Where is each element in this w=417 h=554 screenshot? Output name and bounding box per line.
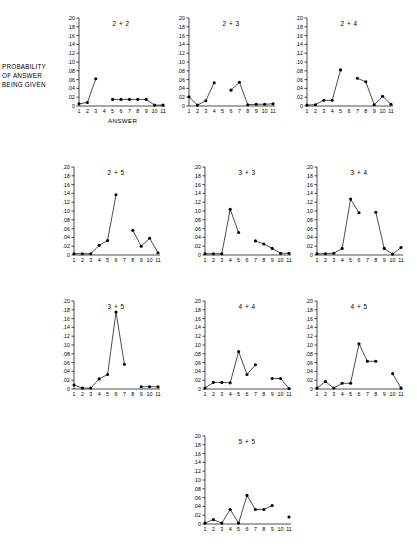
y-tick-label: .10: [68, 59, 75, 65]
x-tick-label: 9: [140, 391, 143, 397]
y-tick-label: .04: [63, 234, 70, 240]
x-tick-label: 4: [341, 257, 344, 263]
data-point: [339, 68, 342, 71]
x-tick-label: 7: [356, 108, 359, 114]
y-tick-label: .20: [63, 164, 70, 170]
x-tick-label: 4: [98, 257, 101, 263]
x-tick-label: 1: [188, 108, 191, 114]
x-tick-label: 2: [314, 108, 317, 114]
data-point: [332, 252, 335, 255]
data-point: [140, 385, 143, 388]
y-tick-label: .04: [178, 85, 185, 91]
y-tick-label: .04: [68, 85, 75, 91]
x-tick-label: 3: [322, 108, 325, 114]
data-point: [357, 342, 360, 345]
y-tick-label: .14: [306, 190, 313, 196]
x-tick-label: 5: [237, 391, 240, 397]
x-tick-label: 7: [128, 108, 131, 114]
x-tick-label: 2: [324, 391, 327, 397]
chart-panel-5+5: 0.02.04.06.08.10.12.14.16.18.20123456789…: [188, 432, 293, 544]
y-tick-label: .14: [194, 324, 201, 330]
series-segment: [376, 212, 401, 254]
x-tick-label: 6: [246, 526, 249, 532]
chart-panel-3+4: 0.02.04.06.08.10.12.14.16.18.20123456789…: [300, 163, 405, 275]
y-tick-label: 0: [310, 386, 313, 392]
y-tick-label: 0: [300, 103, 303, 109]
x-tick-label: 3: [204, 108, 207, 114]
data-point: [98, 244, 101, 247]
y-tick-label: .08: [194, 486, 201, 492]
x-tick-label: 7: [123, 391, 126, 397]
x-tick-label: 10: [380, 108, 386, 114]
y-tick-label: .06: [63, 360, 70, 366]
series-segment: [231, 82, 273, 104]
panel-title: 4 + 4: [239, 303, 256, 310]
y-tick-label: .08: [306, 217, 313, 223]
x-tick-label: 2: [86, 108, 89, 114]
y-tick-label: .06: [296, 77, 303, 83]
data-point: [271, 247, 274, 250]
data-point: [245, 373, 248, 376]
data-point: [341, 247, 344, 250]
x-tick-label: 6: [230, 108, 233, 114]
x-tick-label: 1: [78, 108, 81, 114]
y-tick-label: .08: [194, 351, 201, 357]
x-tick-label: 1: [73, 391, 76, 397]
data-point: [89, 252, 92, 255]
x-tick-label: 3: [89, 257, 92, 263]
y-tick-label: .02: [194, 377, 201, 383]
data-point: [254, 363, 257, 366]
x-tick-label: 6: [348, 108, 351, 114]
y-tick-label: .06: [194, 360, 201, 366]
y-tick-label: .02: [68, 94, 75, 100]
chart-panel-2+3: 0.02.04.06.08.10.12.14.16.18.20123456789…: [172, 14, 277, 126]
panel-title: 3 + 5: [108, 303, 125, 310]
data-point: [123, 363, 126, 366]
y-tick-label: .02: [194, 243, 201, 249]
x-tick-label: 9: [373, 108, 376, 114]
data-point: [263, 103, 266, 106]
data-point: [255, 103, 258, 106]
y-tick-label: .14: [194, 459, 201, 465]
data-point: [229, 89, 232, 92]
x-tick-label: 11: [388, 108, 394, 114]
y-tick-label: .10: [194, 208, 201, 214]
y-tick-label: 0: [198, 521, 201, 527]
x-tick-label: 2: [212, 257, 215, 263]
y-tick-label: 0: [198, 252, 201, 258]
y-tick-label: .12: [194, 468, 201, 474]
x-tick-label: 11: [155, 391, 161, 397]
y-tick-label: .10: [296, 59, 303, 65]
data-point: [229, 508, 232, 511]
x-tick-label: 11: [286, 257, 292, 263]
y-tick-label: .10: [178, 59, 185, 65]
y-tick-label: .16: [68, 33, 75, 39]
y-tick-label: .16: [63, 316, 70, 322]
x-tick-label: 8: [262, 526, 265, 532]
panel-title: 3 + 3: [239, 169, 256, 176]
y-tick-label: .16: [296, 33, 303, 39]
x-tick-label: 4: [213, 108, 216, 114]
data-point: [220, 522, 223, 525]
data-point: [262, 242, 265, 245]
y-tick-label: 0: [72, 103, 75, 109]
y-tick-label: .18: [296, 24, 303, 30]
data-point: [374, 211, 377, 214]
data-point: [254, 508, 257, 511]
data-point: [89, 387, 92, 390]
x-tick-label: 9: [140, 257, 143, 263]
x-tick-label: 2: [81, 257, 84, 263]
data-point: [114, 193, 117, 196]
y-tick-label: .18: [194, 442, 201, 448]
data-point: [212, 518, 215, 521]
panel-title: 4 + 5: [351, 303, 368, 310]
data-point: [111, 98, 114, 101]
x-tick-label: 3: [220, 391, 223, 397]
y-tick-label: .04: [306, 234, 313, 240]
data-point: [246, 103, 249, 106]
x-tick-label: 10: [390, 391, 396, 397]
x-tick-label: 11: [398, 391, 404, 397]
data-point: [213, 81, 216, 84]
y-tick-label: .04: [63, 368, 70, 374]
data-point: [238, 81, 241, 84]
